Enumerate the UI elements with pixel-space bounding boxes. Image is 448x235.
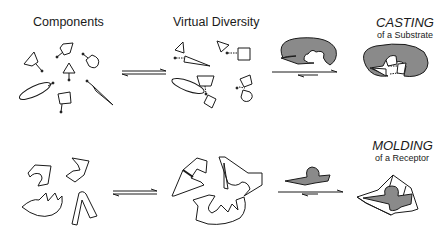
- diagram-canvas: [0, 0, 448, 235]
- substrate-shape-bottom: [285, 167, 330, 185]
- virtual-diversity-bottom-group: [172, 157, 262, 224]
- equilibrium-arrow-2: [272, 70, 337, 77]
- receptor-shape-top: [281, 38, 336, 65]
- molding-result: [357, 175, 418, 215]
- components-top-group: [17, 43, 113, 113]
- components-bottom-group: [22, 158, 97, 225]
- equilibrium-arrow-4: [278, 190, 343, 196]
- equilibrium-arrow-3: [113, 189, 157, 196]
- virtual-diversity-top-group: [170, 41, 252, 108]
- equilibrium-arrow-1: [122, 69, 166, 76]
- casting-result: [364, 44, 428, 77]
